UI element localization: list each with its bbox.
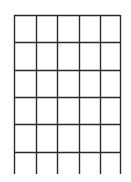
grid-diagram (0, 0, 131, 182)
